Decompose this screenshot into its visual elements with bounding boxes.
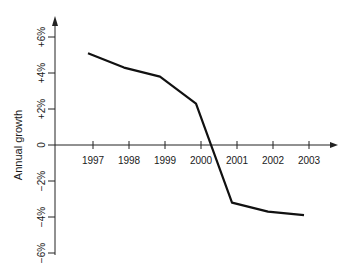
y-tick-label: −4% <box>36 207 47 227</box>
y-axis-arrow-icon <box>52 16 58 26</box>
y-axis-title: Annual growth <box>12 110 24 180</box>
y-tick-label: +6% <box>36 27 47 47</box>
x-axis-arrow-icon <box>330 142 338 148</box>
y-tick-label: 0 <box>36 142 47 148</box>
x-tick-label: 1997 <box>82 155 105 166</box>
x-tick-label: 2000 <box>190 155 213 166</box>
x-tick-label: 2003 <box>298 155 321 166</box>
y-tick-label: −6% <box>36 243 47 263</box>
x-tick-label: 1998 <box>118 155 141 166</box>
y-tick-label: +4% <box>36 63 47 83</box>
line-chart: +6%+4%+2%0−2%−4%−6% 19971998199920002001… <box>0 0 353 275</box>
x-tick-label: 1999 <box>154 155 177 166</box>
growth-line <box>88 53 304 215</box>
axes <box>52 16 338 255</box>
y-tick-label: +2% <box>36 99 47 119</box>
x-tick-label: 2001 <box>226 155 249 166</box>
x-tick-label: 2002 <box>262 155 285 166</box>
y-tick-label: −2% <box>36 171 47 191</box>
y-axis-ticks: +6%+4%+2%0−2%−4%−6% <box>36 27 56 263</box>
